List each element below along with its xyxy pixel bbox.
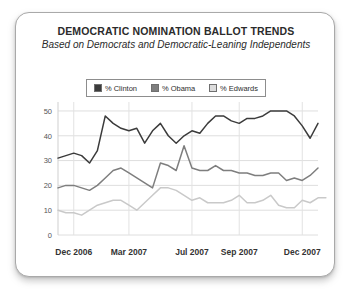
y-axis-tick-label: 50	[44, 107, 52, 116]
x-axis-tick-label: Sep 2007	[221, 247, 258, 257]
x-axis-tick-label: Dec 2006	[55, 247, 92, 257]
screenshot-root: DEMOCRATIC NOMINATION BALLOT TRENDS Base…	[0, 0, 352, 301]
plot-area: 01020304050 Dec 2006Mar 2007Jul 2007Sep …	[16, 13, 336, 278]
y-axis-tick-label: 0	[48, 231, 52, 240]
y-axis-tick-labels: 01020304050	[44, 107, 52, 240]
x-axis-tick-label: Dec 2007	[284, 247, 321, 257]
y-axis-tick-label: 30	[44, 156, 52, 165]
x-axis-tick-label: Jul 2007	[175, 247, 209, 257]
x-axis-tick-label: Mar 2007	[111, 247, 148, 257]
chart-card: DEMOCRATIC NOMINATION BALLOT TRENDS Base…	[15, 12, 335, 277]
x-axis-tick-labels: Dec 2006Mar 2007Jul 2007Sep 2007Dec 2007	[55, 247, 321, 257]
y-axis-tick-label: 10	[44, 206, 52, 215]
line-chart-svg: 01020304050 Dec 2006Mar 2007Jul 2007Sep …	[16, 13, 336, 278]
y-axis-tick-label: 40	[44, 132, 52, 141]
y-axis-tick-label: 20	[44, 181, 52, 190]
chart-gridlines	[58, 102, 318, 235]
